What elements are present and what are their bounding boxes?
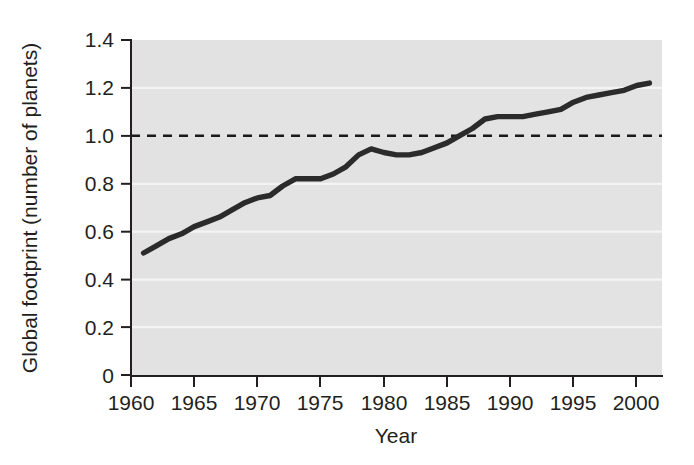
x-tick-label-1995: 1995 [550, 391, 597, 414]
band-0.8-1.0 [131, 136, 662, 184]
chart-figure: 1.4 1.2 1.0 0.8 0.6 0.4 0.2 0 1960 1965 … [0, 0, 694, 465]
y-tick-label-1.0: 1.0 [85, 124, 114, 147]
band-1.2-1.4 [131, 40, 662, 88]
x-tick-label-1975: 1975 [297, 391, 344, 414]
y-tick-label-0.4: 0.4 [85, 268, 115, 291]
x-tick-label-1965: 1965 [171, 391, 218, 414]
x-tick-label-1960: 1960 [108, 391, 155, 414]
band-0-0.2 [131, 327, 662, 375]
x-tick-label-1985: 1985 [424, 391, 471, 414]
y-axis-title: Global footprint (number of planets) [18, 43, 41, 373]
y-tick-label-1.2: 1.2 [85, 76, 114, 99]
plot-background [131, 40, 662, 375]
y-tick-label-0.2: 0.2 [85, 316, 114, 339]
footprint-line-chart: 1.4 1.2 1.0 0.8 0.6 0.4 0.2 0 1960 1965 … [0, 0, 694, 465]
x-tick-label-1970: 1970 [234, 391, 281, 414]
plot-area-fill [131, 40, 662, 375]
x-tick-label-2000: 2000 [613, 391, 660, 414]
y-tick-label-0.6: 0.6 [85, 220, 114, 243]
x-axis: 1960 1965 1970 1975 1980 1985 1990 1995 … [108, 376, 662, 414]
band-0.4-0.6 [131, 232, 662, 280]
y-axis: 1.4 1.2 1.0 0.8 0.6 0.4 0.2 0 [85, 28, 131, 387]
x-tick-label-1990: 1990 [487, 391, 534, 414]
y-tick-label-1.4: 1.4 [85, 28, 115, 51]
y-tick-label-0: 0 [102, 364, 114, 387]
x-axis-title: Year [375, 424, 417, 447]
x-tick-label-1980: 1980 [361, 391, 408, 414]
y-tick-label-0.8: 0.8 [85, 172, 114, 195]
